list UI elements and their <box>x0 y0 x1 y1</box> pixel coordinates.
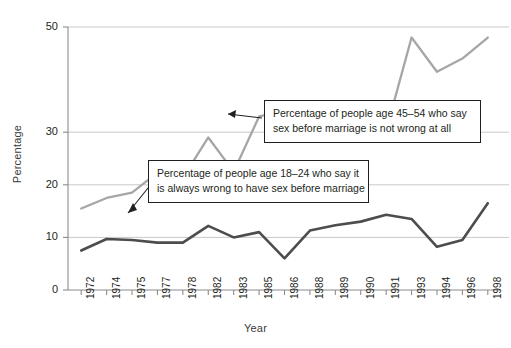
x-tick-label: 1975 <box>136 277 147 299</box>
y-tick-label: 0 <box>24 283 58 295</box>
annotation-callout-age-18-24: Percentage of people age 18–24 who say i… <box>148 160 369 203</box>
series-line-age-18-24 <box>81 203 488 258</box>
x-tick-label: 1996 <box>466 277 477 299</box>
x-tick-label: 1993 <box>416 277 427 299</box>
x-tick-label: 1978 <box>187 277 198 299</box>
annotation-line: is always wrong to have sex before marri… <box>157 181 360 196</box>
x-axis-title: Year <box>0 322 511 334</box>
y-tick-label: 20 <box>24 178 58 190</box>
x-tick-label: 1998 <box>492 277 503 299</box>
y-tick-label: 30 <box>24 125 58 137</box>
x-tick-label: 1977 <box>161 277 172 299</box>
annotation-callout-age-45-54: Percentage of people age 45–54 who say s… <box>264 100 481 143</box>
x-tick-label: 1985 <box>263 277 274 299</box>
x-tick-label: 1974 <box>111 277 122 299</box>
x-tick-label: 1990 <box>365 277 376 299</box>
y-axis-title: Percentage <box>11 109 23 199</box>
x-tick-label: 1991 <box>390 277 401 299</box>
y-tick-label: 50 <box>24 20 58 32</box>
x-tick-label: 1988 <box>314 277 325 299</box>
x-tick-label: 1989 <box>339 277 350 299</box>
chart-figure: Percentage Year 010203050 19721974197519… <box>0 0 511 348</box>
x-tick-label: 1983 <box>238 277 249 299</box>
annotation-line: sex before marriage is not wrong at all <box>273 121 472 136</box>
annotation-arrow-45-54 <box>228 110 262 118</box>
x-tick-label: 1982 <box>212 277 223 299</box>
y-axis-ticks <box>63 27 68 290</box>
x-tick-label: 1994 <box>441 277 452 299</box>
x-tick-label: 1972 <box>85 277 96 299</box>
annotation-line: Percentage of people age 45–54 who say <box>273 106 472 121</box>
x-tick-label: 1986 <box>289 277 300 299</box>
y-tick-label: 10 <box>24 230 58 242</box>
annotation-line: Percentage of people age 18–24 who say i… <box>157 166 360 181</box>
